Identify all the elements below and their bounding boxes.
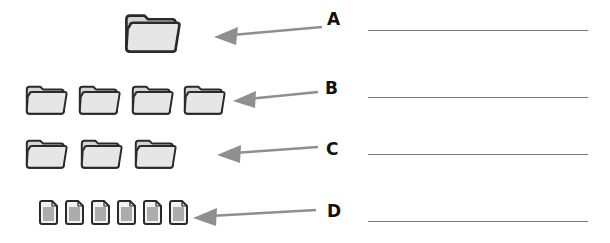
folder-icon (185, 87, 225, 114)
folder-icon (27, 141, 67, 168)
label-a: A (327, 11, 340, 28)
worksheet-graphics (0, 0, 610, 243)
arrow-a (214, 27, 322, 45)
label-d: D (327, 203, 341, 220)
folder-icon (27, 87, 67, 114)
document-icon (170, 201, 187, 224)
document-icon (40, 201, 57, 224)
answer-line-d[interactable] (368, 221, 588, 222)
document-icon (118, 201, 135, 224)
folder-icon (126, 16, 179, 52)
row-a-icons (126, 16, 179, 52)
label-c: C (326, 141, 338, 158)
answer-line-a[interactable] (368, 30, 588, 31)
answer-line-b[interactable] (368, 97, 588, 98)
row-d-icons (40, 201, 187, 224)
folder-icon (82, 141, 122, 168)
document-icon (144, 201, 161, 224)
document-icon (66, 201, 83, 224)
row-c-icons (27, 141, 176, 168)
arrow-d (193, 208, 316, 226)
folder-icon (136, 141, 176, 168)
label-b: B (325, 80, 338, 97)
arrow-c (217, 145, 318, 163)
folder-icon (133, 87, 173, 114)
folder-icon (80, 87, 120, 114)
document-icon (92, 201, 109, 224)
arrow-b (233, 91, 318, 108)
answer-line-c[interactable] (368, 154, 588, 155)
row-b-icons (27, 87, 225, 114)
